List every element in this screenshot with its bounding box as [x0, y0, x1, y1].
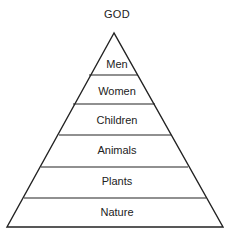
tier-children: Children: [0, 114, 234, 126]
tier-nature: Nature: [0, 206, 234, 218]
tier-animals: Animals: [0, 144, 234, 156]
tier-plants: Plants: [0, 175, 234, 187]
tier-men: Men: [0, 58, 234, 70]
tier-women: Women: [0, 85, 234, 97]
